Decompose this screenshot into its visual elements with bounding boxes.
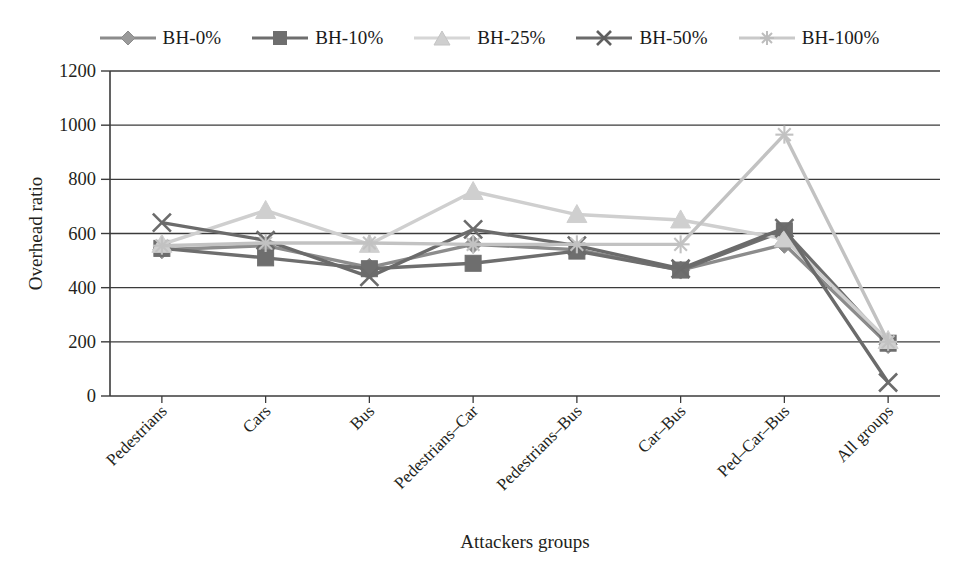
xtick-label-7: All groups: [832, 401, 897, 466]
ytick-label-0: 0: [87, 386, 96, 406]
ytick-label-400: 400: [68, 278, 96, 298]
xtick-label-6: Ped–Car–Bus: [714, 401, 794, 481]
ytick-label-600: 600: [68, 224, 96, 244]
datapoint-2-3: [463, 182, 483, 200]
chart-figure: BH-0% BH-10% BH-25%: [0, 0, 978, 583]
xtick-label-2: Bus: [346, 401, 378, 433]
x-axis-title: Attackers groups: [460, 531, 589, 552]
ytick-label-800: 800: [68, 169, 96, 189]
datapoint-1-1: [258, 250, 274, 266]
xtick-label-1: Cars: [239, 401, 274, 436]
ytick-label-1200: 1200: [59, 61, 96, 81]
datapoint-1-3: [465, 255, 481, 271]
xtick-label-5: Car–Bus: [634, 401, 690, 457]
y-axis-title: Overhead ratio: [25, 177, 46, 290]
chart-canvas: 020040060080010001200Overhead ratioPedes…: [0, 0, 978, 583]
xtick-label-3: Pedestrians–Car: [390, 401, 482, 493]
xtick-label-4: Pedestrians–Bus: [493, 401, 586, 494]
ytick-label-1000: 1000: [59, 115, 96, 135]
ytick-label-200: 200: [68, 332, 96, 352]
chart-plot-area: 020040060080010001200Overhead ratioPedes…: [0, 0, 978, 583]
xtick-label-0: Pedestrians: [103, 401, 171, 469]
datapoint-2-1: [256, 200, 276, 218]
